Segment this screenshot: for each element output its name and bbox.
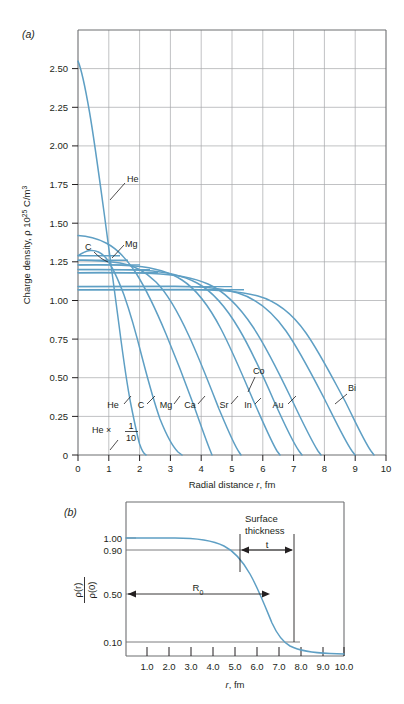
label-ca-baseline: Ca bbox=[184, 400, 196, 410]
label-co: Co bbox=[253, 366, 265, 376]
y-tick-025: 0.25 bbox=[50, 411, 69, 422]
y-tick-175: 1.75 bbox=[50, 179, 69, 190]
label-he-baseline: He bbox=[107, 400, 119, 410]
panel-a-chart: (a) bbox=[0, 0, 404, 490]
panel-b-x-tick-8: 8.0 bbox=[294, 661, 307, 672]
panel-a-label: (a) bbox=[22, 28, 35, 40]
panel-b-y-tick-050: 0.50 bbox=[104, 589, 123, 600]
label-he-upper: He bbox=[127, 174, 139, 184]
panel-b-y-tick-010: 0.10 bbox=[104, 637, 123, 648]
panel-b-y-tick-100: 1.00 bbox=[104, 533, 123, 544]
x-tick-10: 10 bbox=[381, 463, 392, 474]
panel-a-curves bbox=[78, 61, 374, 455]
label-bi: Bi bbox=[348, 383, 356, 393]
panel-b-x-tick-3: 3.0 bbox=[184, 661, 197, 672]
label-he-scaled: He × 1 10 bbox=[92, 421, 138, 450]
panel-b-y-tick-labels: 1.00 0.90 0.50 0.10 bbox=[104, 533, 123, 648]
panel-a-x-axis-title: Radial distance r, fm bbox=[189, 479, 276, 490]
panel-b-y-axis-title: ρ(r) ρ(0) bbox=[72, 577, 97, 603]
panel-b-x-tick-7: 7.0 bbox=[272, 661, 285, 672]
x-tick-5: 5 bbox=[229, 463, 234, 474]
label-mg-upper: Mg bbox=[125, 239, 138, 249]
y-tick-250: 2.50 bbox=[50, 63, 69, 74]
panel-b-chart: (b) 1.00 0.90 0.50 0.10 ρ(r) bbox=[0, 490, 404, 704]
curve-he bbox=[78, 61, 146, 455]
panel-a-y-axis-title: Charge density, ρ 1025 C/m3 bbox=[21, 186, 33, 305]
panel-b-y-axis-numerator: ρ(r) bbox=[72, 583, 83, 598]
curve-au bbox=[78, 286, 355, 455]
panel-b-x-tick-1: 1.0 bbox=[140, 661, 153, 672]
curve-mg bbox=[78, 236, 212, 455]
y-tick-0: 0 bbox=[63, 450, 68, 461]
x-tick-7: 7 bbox=[291, 463, 296, 474]
x-tick-8: 8 bbox=[322, 463, 327, 474]
panel-b-y-axis-denominator: ρ(0) bbox=[86, 581, 97, 598]
curve-co bbox=[78, 273, 321, 455]
label-mg-baseline: Mg bbox=[160, 400, 173, 410]
panel-b-x-tick-9: 9.0 bbox=[316, 661, 329, 672]
panel-a-y-tick-labels: 0 0.25 0.50 0.75 1.00 1.25 1.50 1.75 2.0… bbox=[50, 63, 69, 460]
panel-b-x-tick-2: 2.0 bbox=[162, 661, 175, 672]
t-arrow-left bbox=[241, 547, 249, 554]
label-he-scaled-denominator: 10 bbox=[126, 433, 136, 443]
panel-b-x-tick-4: 4.0 bbox=[206, 661, 219, 672]
x-tick-3: 3 bbox=[168, 463, 173, 474]
panel-b-x-axis-title: r, fm bbox=[225, 679, 244, 690]
y-axis-title-mantissa: 10 bbox=[21, 217, 32, 230]
panel-b-x-tick-labels: 1.0 2.0 3.0 4.0 5.0 6.0 7.0 8.0 9.0 10.0 bbox=[140, 661, 353, 672]
label-c-upper: C bbox=[85, 242, 92, 252]
panel-b-r0-annotation: R0 bbox=[128, 582, 270, 598]
y-tick-200: 2.00 bbox=[50, 140, 69, 151]
x-tick-1: 1 bbox=[106, 463, 111, 474]
panel-b-thickness-symbol: t bbox=[266, 539, 269, 550]
x-axis-title-suffix: , fm bbox=[259, 479, 275, 490]
x-axis-title-prefix: Radial distance bbox=[189, 479, 257, 490]
panel-b-label: (b) bbox=[64, 506, 77, 518]
panel-b-x-tick-6: 6.0 bbox=[250, 661, 263, 672]
label-au-baseline: Au bbox=[272, 400, 283, 410]
label-he-scaled-text: He × bbox=[92, 425, 111, 435]
panel-a-annotations: He C Mg Co Bi He C Mg Ca Sr In bbox=[85, 174, 356, 450]
panel-b-x-tick-5: 5.0 bbox=[228, 661, 241, 672]
panel-b-surface-line2: thickness bbox=[245, 525, 285, 536]
y-axis-title-prefix: Charge density, bbox=[21, 236, 32, 304]
x-tick-2: 2 bbox=[137, 463, 142, 474]
y-tick-100: 1.00 bbox=[50, 295, 69, 306]
y-tick-225: 2.25 bbox=[50, 102, 69, 113]
label-he-scaled-numerator: 1 bbox=[128, 421, 133, 431]
panel-b-x-tick-10: 10.0 bbox=[335, 661, 354, 672]
y-tick-050: 0.50 bbox=[50, 372, 69, 383]
panel-b-x-ticks bbox=[147, 647, 344, 656]
r0-subscript: 0 bbox=[199, 589, 203, 596]
panel-b-surface-line1: Surface bbox=[245, 513, 278, 524]
x-tick-9: 9 bbox=[353, 463, 358, 474]
figure-root: (a) bbox=[0, 0, 404, 704]
panel-b-curve bbox=[126, 538, 344, 654]
panel-b-y-tick-090: 0.90 bbox=[104, 545, 123, 556]
y-axis-title-units: C/m bbox=[21, 189, 32, 209]
label-c-baseline: C bbox=[138, 400, 145, 410]
x-tick-4: 4 bbox=[199, 463, 204, 474]
x-tick-6: 6 bbox=[260, 463, 265, 474]
panel-a-x-tick-labels: 0 1 2 3 4 5 6 7 8 9 10 bbox=[75, 463, 391, 474]
r0-arrow-right bbox=[262, 591, 270, 598]
curve-in bbox=[78, 269, 302, 455]
t-arrow-right bbox=[285, 547, 293, 554]
panel-a-y-ticks bbox=[72, 69, 78, 455]
panel-b-r0-label: R0 bbox=[193, 582, 204, 596]
y-tick-075: 0.75 bbox=[50, 334, 69, 345]
curve-bi bbox=[78, 289, 374, 455]
x-tick-0: 0 bbox=[75, 463, 80, 474]
panel-b-frame bbox=[126, 502, 344, 656]
r0-arrow-left bbox=[128, 591, 136, 598]
panel-a-x-ticks bbox=[78, 455, 386, 461]
panel-b-x-axis-suffix: , fm bbox=[229, 679, 245, 690]
label-in-baseline: In bbox=[244, 400, 252, 410]
y-tick-125: 1.25 bbox=[50, 256, 69, 267]
label-sr-baseline: Sr bbox=[220, 400, 229, 410]
panel-b-surface-thickness-annotation: t Surface thickness bbox=[240, 513, 294, 642]
y-tick-150: 1.50 bbox=[50, 218, 69, 229]
y-axis-title-units-exp: 3 bbox=[21, 186, 28, 190]
